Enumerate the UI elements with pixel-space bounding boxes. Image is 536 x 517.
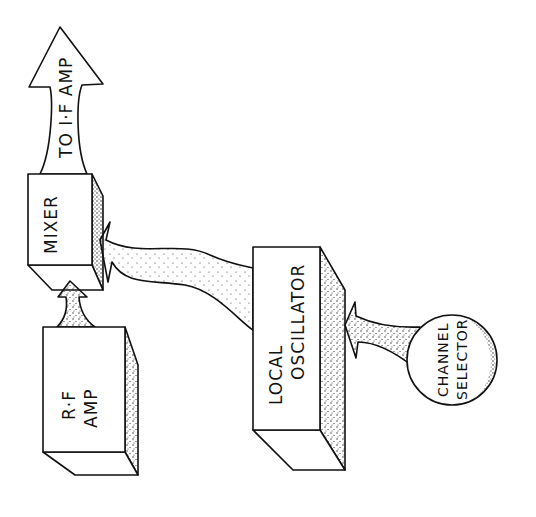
output-arrow-label: TO I·F AMP	[56, 57, 76, 159]
output-arrow-to-if-amp: TO I·F AMP	[29, 27, 103, 174]
mixer-block: MIXER	[28, 174, 103, 290]
local-oscillator-block: LOCAL OSCILLATOR	[253, 247, 345, 470]
rf-amp-label-line1: R·F	[59, 390, 79, 420]
rf-amp-label-line2: AMP	[81, 388, 101, 428]
block-diagram: TO I·F AMP MIXER R·F AMP	[0, 0, 536, 517]
mixer-label: MIXER	[41, 195, 61, 254]
local-oscillator-label-line2: OSCILLATOR	[288, 264, 308, 380]
arrow-local-oscillator-to-mixer	[100, 222, 253, 330]
rf-amp-block: R·F AMP	[43, 327, 138, 475]
channel-selector-label-line2: SELECTOR	[454, 319, 470, 400]
channel-selector-label-line1: CHANNEL	[435, 323, 451, 397]
local-oscillator-label-line1: LOCAL	[266, 345, 286, 405]
channel-selector-knob: CHANNEL SELECTOR	[407, 315, 497, 405]
